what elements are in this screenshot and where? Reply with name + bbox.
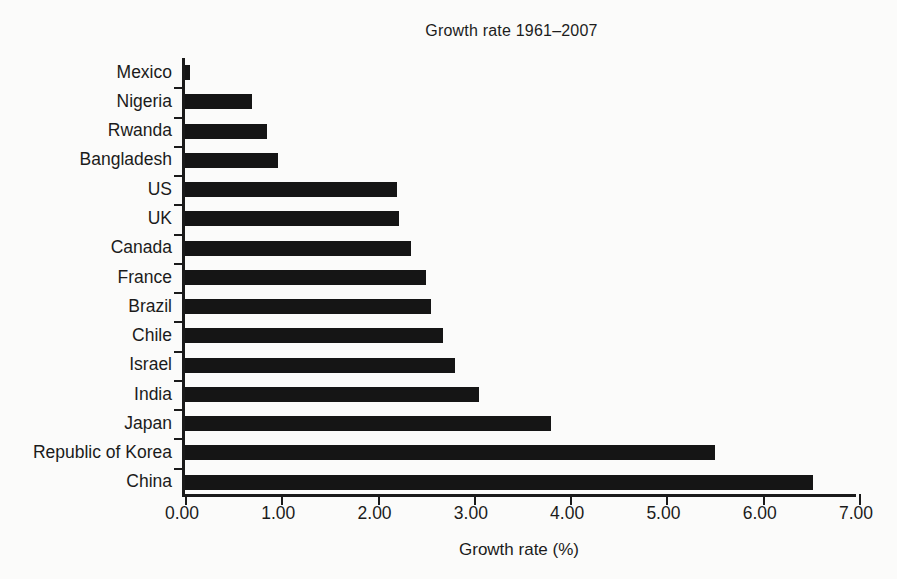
y-axis-label-canada: Canada — [0, 239, 172, 257]
y-axis-label-nigeria: Nigeria — [0, 93, 172, 111]
bar — [185, 270, 426, 285]
bar-row — [185, 468, 856, 497]
chart-title: Growth rate 1961–2007 — [0, 22, 897, 40]
x-axis-tick-label: 3.00 — [454, 503, 488, 524]
bar — [185, 387, 479, 402]
y-axis-label-uk: UK — [0, 210, 172, 228]
y-axis-tick — [174, 234, 185, 236]
x-axis-tick-label: 0.00 — [165, 503, 199, 524]
bar — [185, 475, 813, 490]
y-axis-tick — [174, 204, 185, 206]
bar-row — [185, 117, 856, 146]
bar — [185, 416, 551, 431]
bar-row — [185, 438, 856, 467]
bar-row — [185, 175, 856, 204]
y-axis-tick — [174, 117, 185, 119]
y-axis-label-chile: Chile — [0, 327, 172, 345]
y-axis-tick — [174, 438, 185, 440]
bar-row — [185, 87, 856, 116]
bar — [185, 445, 715, 460]
y-axis-label-rwanda: Rwanda — [0, 122, 172, 140]
y-axis-label-mexico: Mexico — [0, 64, 172, 82]
y-axis-tick — [174, 380, 185, 382]
x-axis-tick-label: 6.00 — [743, 503, 777, 524]
bar-row — [185, 351, 856, 380]
bar-row — [185, 58, 856, 87]
bar — [185, 182, 397, 197]
y-axis-tick — [174, 321, 185, 323]
y-axis-tick — [174, 292, 185, 294]
y-axis-label-republic-of-korea: Republic of Korea — [0, 444, 172, 462]
x-axis-tick-label: 7.00 — [839, 503, 873, 524]
y-axis-label-france: France — [0, 269, 172, 287]
bar — [185, 299, 431, 314]
y-axis-label-japan: Japan — [0, 415, 172, 433]
y-axis-tick — [174, 409, 185, 411]
y-axis-label-israel: Israel — [0, 356, 172, 374]
bar — [185, 328, 443, 343]
bar — [185, 358, 455, 373]
y-axis-tick — [174, 351, 185, 353]
bar-row — [185, 263, 856, 292]
bar — [185, 211, 399, 226]
y-axis-label-us: US — [0, 181, 172, 199]
plot-area — [182, 58, 856, 497]
x-axis-tick-labels: 0.001.002.003.004.005.006.007.00 — [0, 503, 897, 529]
bar-row — [185, 292, 856, 321]
y-axis-tick — [174, 87, 185, 89]
x-axis-tick-label: 2.00 — [358, 503, 392, 524]
bar-row — [185, 204, 856, 233]
bar — [185, 241, 411, 256]
bar — [185, 124, 267, 139]
y-axis-tick — [174, 468, 185, 470]
y-axis-tick — [174, 146, 185, 148]
bar-row — [185, 380, 856, 409]
chart-figure: Growth rate 1961–2007 MexicoNigeriaRwand… — [0, 0, 897, 579]
bar-row — [185, 409, 856, 438]
bar — [185, 65, 190, 80]
bar-row — [185, 234, 856, 263]
y-axis-label-india: India — [0, 386, 172, 404]
bar — [185, 94, 252, 109]
x-axis-tick-label: 4.00 — [550, 503, 584, 524]
bar-row — [185, 146, 856, 175]
x-axis-tick-label: 1.00 — [261, 503, 295, 524]
x-axis-tick-label: 5.00 — [646, 503, 680, 524]
x-axis-title: Growth rate (%) — [182, 540, 856, 560]
y-axis-label-bangladesh: Bangladesh — [0, 151, 172, 169]
y-axis-tick — [174, 175, 185, 177]
y-axis-category-labels: MexicoNigeriaRwandaBangladeshUSUKCanadaF… — [0, 58, 172, 497]
chart-title-text: Growth rate 1961–2007 — [425, 22, 597, 40]
y-axis-label-china: China — [0, 473, 172, 491]
y-axis-tick — [174, 263, 185, 265]
bar — [185, 153, 278, 168]
bar-row — [185, 321, 856, 350]
y-axis-label-brazil: Brazil — [0, 298, 172, 316]
